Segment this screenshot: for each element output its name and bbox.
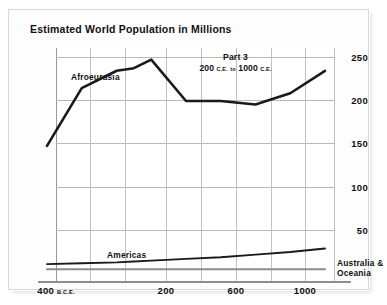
line-americas bbox=[47, 249, 325, 265]
chart-lines bbox=[0, 0, 387, 305]
line-afroeurasia bbox=[47, 60, 325, 146]
